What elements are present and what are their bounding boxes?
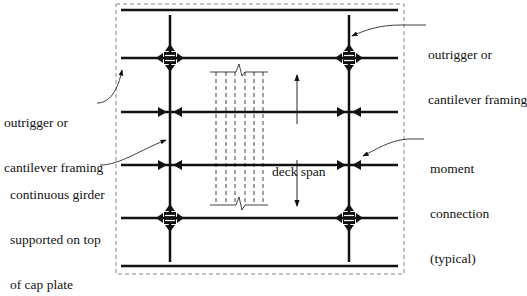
label-line: outrigger or	[4, 115, 103, 130]
outrigger-label-right: outrigger or cantilever framing	[428, 17, 527, 122]
label-line: cantilever framing	[428, 92, 527, 107]
label-line: supported on top	[10, 232, 105, 247]
label-line: connection	[430, 206, 489, 221]
dashed-boundary	[116, 4, 404, 274]
label-line: of cap plate	[10, 277, 105, 292]
label-line: moment	[430, 161, 489, 176]
label-line: outrigger or	[428, 47, 527, 62]
moment-connection-label: moment connection (typical)	[430, 131, 489, 281]
label-line: (typical)	[430, 251, 489, 266]
label-line: deck span	[272, 164, 326, 179]
label-line: continuous girder	[10, 187, 105, 202]
horizontal-beams	[121, 10, 398, 266]
moment-connections	[158, 107, 361, 170]
continuous-girder-label: continuous girder supported on top of ca…	[10, 157, 105, 296]
deck-span-label: deck span	[272, 134, 326, 194]
deck-section	[210, 64, 268, 210]
